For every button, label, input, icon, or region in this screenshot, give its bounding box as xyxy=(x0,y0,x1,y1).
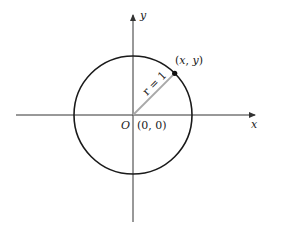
unit-circle-diagram: y x O (0, 0) (x, y) r = 1 xyxy=(0,0,281,236)
point-on-circle xyxy=(172,71,177,76)
x-axis-label: x xyxy=(251,118,258,131)
origin-label: O xyxy=(121,119,130,132)
point-label: (x, y) xyxy=(175,54,203,67)
y-axis-label: y xyxy=(139,9,147,22)
origin-coords-label: (0, 0) xyxy=(137,119,167,132)
